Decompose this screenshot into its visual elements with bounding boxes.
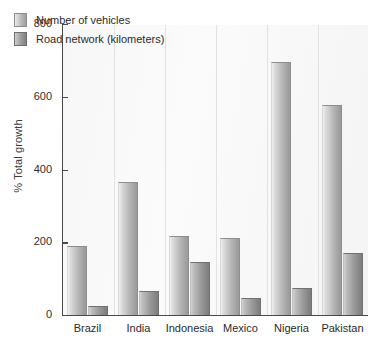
- plot-inner: 0200400600800: [63, 25, 368, 315]
- legend-item-vehicles: Number of vehicles: [14, 11, 164, 28]
- bar-group: [165, 25, 216, 315]
- bar-chart: % Total growth 0200400600800 BrazilIndia…: [0, 0, 376, 348]
- legend: Number of vehicles Road network (kilomet…: [14, 11, 164, 49]
- legend-label-road: Road network (kilometers): [36, 33, 164, 45]
- x-axis-label: Brazil: [62, 322, 113, 334]
- bar-group: [267, 25, 318, 315]
- y-tick-label: 400: [34, 163, 52, 175]
- x-axis-label: Mexico: [215, 322, 266, 334]
- y-axis-title: % Total growth: [12, 86, 24, 226]
- bar-road[interactable]: [139, 291, 159, 315]
- bar-road[interactable]: [292, 288, 312, 315]
- bar-group: [63, 25, 114, 315]
- y-tick-label: 0: [46, 308, 52, 320]
- bar-group: [114, 25, 165, 315]
- legend-swatch-vehicles: [14, 13, 27, 27]
- bar-vehicles[interactable]: [67, 246, 87, 315]
- bar-road[interactable]: [190, 262, 210, 315]
- legend-label-vehicles: Number of vehicles: [36, 14, 130, 26]
- bar-road[interactable]: [343, 253, 363, 315]
- y-tick-mark: [62, 315, 68, 316]
- bar-vehicles[interactable]: [220, 238, 240, 315]
- bar-vehicles[interactable]: [118, 182, 138, 315]
- bar-vehicles[interactable]: [322, 105, 342, 315]
- bar-vehicles[interactable]: [169, 236, 189, 315]
- y-tick-label: 600: [34, 90, 52, 102]
- bar-group: [216, 25, 267, 315]
- plot-area: 0200400600800: [62, 25, 368, 316]
- x-axis-label: Nigeria: [266, 322, 317, 334]
- bar-road[interactable]: [88, 306, 108, 315]
- bar-group: [318, 25, 369, 315]
- legend-item-road: Road network (kilometers): [14, 30, 164, 47]
- x-axis-label: India: [113, 322, 164, 334]
- legend-swatch-road: [14, 32, 27, 46]
- x-axis-label: Indonesia: [164, 322, 215, 334]
- bar-road[interactable]: [241, 298, 261, 315]
- bar-vehicles[interactable]: [271, 62, 291, 315]
- x-axis-label: Pakistan: [317, 322, 368, 334]
- y-tick-label: 200: [34, 235, 52, 247]
